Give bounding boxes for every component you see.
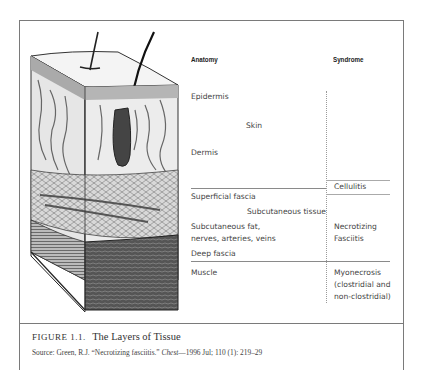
syndrome-myonecrosis-line3: non-clostridial) — [334, 291, 391, 303]
anatomy-epidermis: Epidermis — [191, 91, 229, 103]
figure-title: The Layers of Tissue — [92, 331, 180, 342]
syndrome-necrotizing-line1: Necrotizing — [334, 221, 377, 233]
syndrome-myonecrosis-line1: Myonecrosis — [334, 267, 381, 279]
rule-dermis-fascia — [191, 188, 326, 189]
syndrome-cellulitis: Cellulitis — [334, 181, 366, 193]
figure-source: Source: Green, R.J. “Necrotizing fasciit… — [32, 348, 262, 357]
anatomy-subcutaneous-tissue: Subcutaneous tissue — [247, 206, 326, 218]
figure-caption-title: FIGURE 1.1. The Layers of Tissue — [32, 331, 181, 342]
anatomy-deep-fascia: Deep fascia — [191, 248, 236, 260]
rule-cellulitis-bottom — [326, 194, 390, 195]
column-divider — [326, 91, 327, 303]
anatomy-header: Anatomy — [191, 55, 218, 64]
source-suffix: —1996 Jul; 110 (1): 219–29 — [178, 348, 262, 357]
caption-divider — [19, 323, 404, 324]
syndrome-header: Syndrome — [333, 55, 363, 64]
anatomy-subcutaneous-fat-line1: Subcutaneous fat, — [191, 221, 260, 233]
rule-fascia-muscle — [191, 261, 390, 262]
anatomy-muscle: Muscle — [191, 267, 217, 279]
syndrome-necrotizing-line2: Fasciitis — [334, 233, 364, 245]
anatomy-dermis: Dermis — [191, 147, 218, 159]
source-journal: Chest — [162, 348, 179, 357]
source-prefix: Source: Green, R.J. “Necrotizing fasciit… — [32, 348, 162, 357]
anatomy-superficial-fascia: Superficial fascia — [191, 191, 256, 203]
syndrome-myonecrosis-line2: (clostridial and — [334, 279, 390, 291]
anatomy-skin: Skin — [246, 120, 262, 132]
anatomy-subcutaneous-fat-line2: nerves, arteries, veins — [191, 233, 276, 245]
skin-layers-illustration — [30, 30, 180, 312]
rule-cellulitis-top — [326, 180, 390, 181]
figure-label: FIGURE 1.1. — [32, 332, 86, 342]
